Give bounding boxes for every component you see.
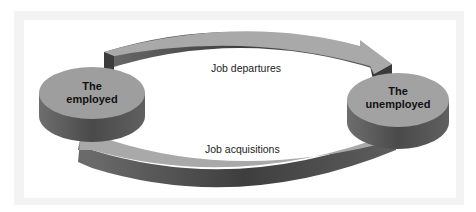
node-employed-line2: employed bbox=[52, 93, 132, 106]
node-employed-label: The employed bbox=[52, 80, 132, 106]
edge-label-job-acquisitions: Job acquisitions bbox=[205, 143, 280, 155]
arrow-job-departures bbox=[104, 31, 392, 84]
edge-label-job-departures: Job departures bbox=[211, 62, 281, 74]
node-unemployed-line1: The bbox=[350, 85, 446, 98]
node-unemployed-label: The unemployed bbox=[350, 85, 446, 111]
arrow-job-acquisitions bbox=[78, 132, 396, 187]
node-employed-line1: The bbox=[52, 80, 132, 93]
node-unemployed-line2: unemployed bbox=[350, 98, 446, 111]
